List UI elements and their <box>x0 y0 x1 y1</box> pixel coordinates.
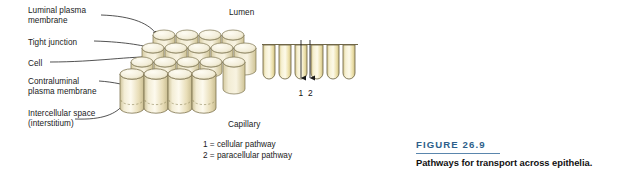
cross-section-cells <box>263 45 355 79</box>
arrow-label-2: 2 <box>308 88 313 98</box>
figure-number: FIGURE 26.9 <box>416 139 612 150</box>
leader-luminal <box>101 15 157 35</box>
epithelial-cell-cluster <box>120 30 256 113</box>
leader-intercellular <box>75 104 124 119</box>
cluster-row-front <box>120 69 216 113</box>
arrow-label-1: 1 <box>299 88 304 98</box>
caption-rule <box>416 153 500 154</box>
cross-section-diagram: 1 2 <box>262 40 358 98</box>
figure-caption-block: FIGURE 26.9 Pathways for transport acros… <box>416 139 612 168</box>
figure-panel: Luminal plasma membrane Tight junction C… <box>0 0 617 182</box>
figure-caption-text: Pathways for transport across epithelia. <box>416 157 612 168</box>
